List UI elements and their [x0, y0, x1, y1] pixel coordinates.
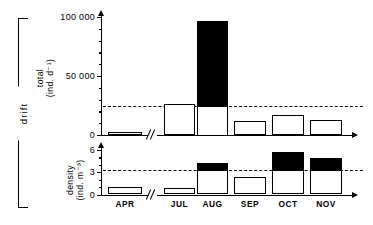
figure-drift-chart: drift total (ind. d⁻¹) 0 50 000 100 0 — [0, 0, 373, 225]
panel-drift-density: density (ind. m⁻³) 0 3 6 — [0, 0, 373, 225]
x-label-nov: NOV — [305, 199, 347, 209]
bar-density-aug-open — [197, 170, 228, 194]
y-tick-minor-density — [99, 157, 102, 158]
y-axis-arrow-density — [98, 142, 104, 148]
bar-density-aug-filled — [197, 163, 228, 171]
bar-density-apr — [108, 187, 142, 194]
bar-density-nov-open — [310, 170, 342, 194]
x-label-sep: SEP — [229, 199, 271, 209]
y-tick-minor-density — [99, 187, 102, 188]
y-tick-label-density-6: 6 — [78, 145, 95, 155]
bar-density-sep — [234, 177, 266, 195]
x-axis-line-density-seg1 — [101, 195, 148, 196]
x-axis-line-density-seg2 — [157, 195, 353, 196]
x-label-apr: APR — [103, 199, 147, 209]
y-tick-major-density-3 — [97, 172, 102, 173]
y-tick-minor-density — [99, 180, 102, 181]
y-tick-label-density-3: 3 — [78, 167, 95, 177]
y-axis-title-density-line1: density — [65, 165, 75, 195]
bar-density-jul — [164, 188, 195, 195]
y-axis-title-density: density (ind. m⁻³) — [65, 152, 85, 208]
y-tick-minor-density — [99, 165, 102, 166]
x-axis-arrow-density — [352, 192, 358, 198]
bar-density-oct-filled — [272, 152, 304, 170]
x-label-aug: AUG — [192, 199, 233, 209]
y-tick-major-density-6 — [97, 150, 102, 151]
bar-density-oct-open — [272, 170, 304, 194]
x-label-oct: OCT — [267, 199, 309, 209]
axis-break-density — [147, 189, 154, 201]
y-tick-label-density-0: 0 — [78, 190, 95, 200]
bar-density-nov-filled — [310, 158, 342, 171]
